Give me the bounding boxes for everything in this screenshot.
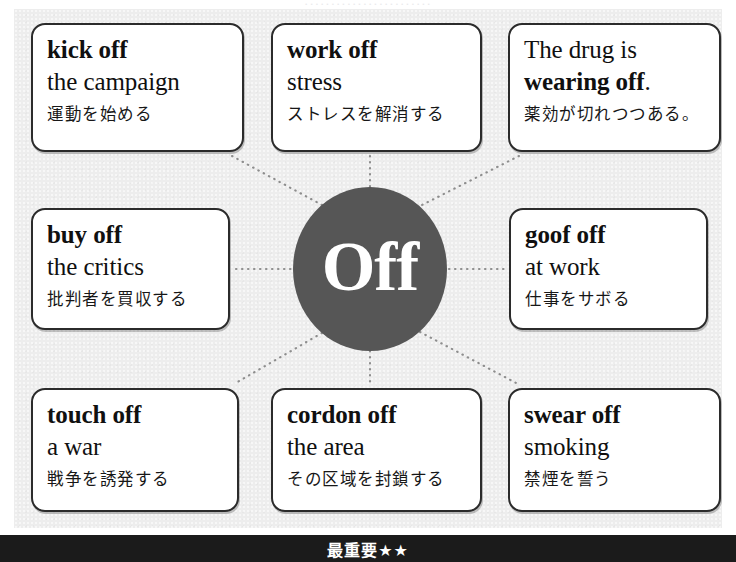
center-node-off: Off — [293, 187, 447, 351]
card-english: work off stress — [287, 34, 466, 97]
card-headword: The drug is — [524, 34, 705, 66]
card-headword: goof off — [525, 219, 692, 251]
card-japanese: ストレスを解消する — [287, 105, 466, 125]
card-headword: buy off — [47, 219, 214, 251]
card-headword: touch off — [47, 399, 223, 431]
card-english: cordon off the area — [287, 399, 466, 462]
card-japanese: その区域を封鎖する — [287, 470, 466, 490]
center-node-label: Off — [322, 233, 419, 302]
card-complement: a war — [47, 431, 223, 463]
card-japanese: 薬効が切れつつある。 — [524, 105, 705, 125]
card-complement: the campaign — [47, 66, 228, 98]
card-complement: smoking — [524, 431, 705, 463]
card-complement-line: wearing off. — [524, 66, 705, 98]
card-buy-off[interactable]: buy off the critics 批判者を買収する — [31, 208, 230, 330]
card-japanese: 戦争を誘発する — [47, 470, 223, 490]
card-complement: the critics — [47, 251, 214, 283]
card-japanese: 批判者を買収する — [47, 290, 214, 310]
card-japanese: 禁煙を誓う — [524, 470, 705, 490]
card-work-off[interactable]: work off stress ストレスを解消する — [271, 23, 482, 152]
card-headword: cordon off — [287, 399, 466, 431]
card-touch-off[interactable]: touch off a war 戦争を誘発する — [31, 388, 239, 512]
card-english: kick off the campaign — [47, 34, 228, 97]
page-top-cutoff-text: ························ — [0, 0, 736, 8]
card-swear-off[interactable]: swear off smoking 禁煙を誓う — [508, 388, 721, 512]
card-headword: kick off — [47, 34, 228, 66]
card-wearing-off[interactable]: The drug is wearing off. 薬効が切れつつある。 — [508, 23, 721, 152]
card-english: The drug is wearing off. — [524, 34, 705, 97]
footer-importance-label: 最重要★★ — [327, 537, 409, 561]
card-complement: the area — [287, 431, 466, 463]
card-complement: wearing off — [524, 68, 644, 95]
card-kick-off[interactable]: kick off the campaign 運動を始める — [31, 23, 244, 152]
diagram-page: ························ Off kick off — [0, 0, 736, 562]
card-japanese: 仕事をサボる — [525, 290, 692, 310]
card-cordon-off[interactable]: cordon off the area その区域を封鎖する — [271, 388, 482, 512]
card-english: goof off at work — [525, 219, 692, 282]
card-english: swear off smoking — [524, 399, 705, 462]
card-headword: work off — [287, 34, 466, 66]
card-japanese: 運動を始める — [47, 105, 228, 125]
card-complement: at work — [525, 251, 692, 283]
card-headword: swear off — [524, 399, 705, 431]
card-english: buy off the critics — [47, 219, 214, 282]
card-complement: stress — [287, 66, 466, 98]
footer-band: 最重要★★ — [0, 535, 736, 562]
card-goof-off[interactable]: goof off at work 仕事をサボる — [509, 208, 708, 330]
card-english: touch off a war — [47, 399, 223, 462]
card-complement-suffix: . — [644, 68, 650, 95]
